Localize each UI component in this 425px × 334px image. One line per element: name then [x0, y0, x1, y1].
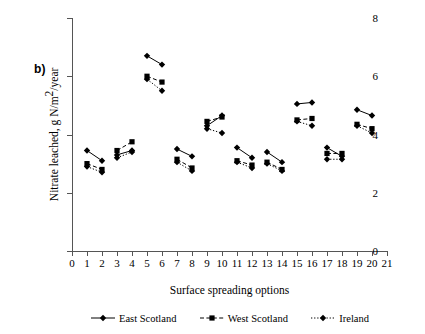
x-tick [117, 251, 118, 256]
legend-label: East Scotland [119, 313, 176, 324]
x-axis-title: Surface spreading options [72, 284, 387, 296]
series-east-scotland [84, 53, 375, 166]
data-point-marker [320, 315, 326, 321]
x-tick [282, 251, 283, 256]
data-point-marker [324, 144, 330, 150]
data-point-marker [159, 79, 164, 84]
legend-marker-icon [90, 313, 116, 323]
data-point-marker [129, 139, 134, 144]
x-tick [267, 251, 268, 256]
series-segment [237, 148, 252, 158]
x-tick [357, 251, 358, 256]
data-point-marker [309, 99, 315, 105]
series-segment [87, 151, 102, 161]
data-point-marker [309, 116, 314, 121]
legend-item-east-scotland[interactable]: East Scotland [90, 313, 176, 324]
x-tick [147, 251, 148, 256]
data-series-layer [72, 18, 387, 251]
data-point-marker [84, 147, 90, 153]
series-segment [177, 149, 192, 156]
data-point-marker [159, 61, 165, 67]
data-point-marker [249, 155, 255, 161]
plot-area: 02468 0123456789101112131415161718192021 [72, 18, 387, 251]
data-point-marker [99, 158, 105, 164]
data-point-marker [114, 148, 119, 153]
x-tick [132, 251, 133, 256]
data-point-marker [294, 101, 300, 107]
chart-legend: East ScotlandWest ScotlandIreland [72, 308, 387, 328]
data-point-marker [279, 159, 285, 165]
data-point-marker [369, 112, 375, 118]
x-tick [162, 251, 163, 256]
data-point-marker [209, 315, 214, 320]
x-tick [252, 251, 253, 256]
x-tick [327, 251, 328, 256]
x-tick [372, 251, 373, 256]
data-point-marker [204, 119, 209, 124]
data-point-marker [219, 130, 225, 136]
series-ireland [84, 76, 375, 176]
legend-label: Ireland [339, 313, 369, 324]
legend-item-west-scotland[interactable]: West Scotland [199, 313, 288, 324]
legend-marker-icon [199, 313, 225, 323]
figure-panel: b) Nitrate leached, g N/m2/year 02468 01… [0, 0, 425, 334]
x-tick [237, 251, 238, 256]
legend-marker-icon [310, 313, 336, 323]
x-axis-line [72, 251, 387, 252]
x-tick [222, 251, 223, 256]
data-point-marker [339, 151, 344, 156]
series-west-scotland [84, 74, 374, 172]
x-tick [177, 251, 178, 256]
data-point-marker [324, 151, 329, 156]
x-tick [297, 251, 298, 256]
data-point-marker [100, 315, 106, 321]
data-point-marker [219, 114, 224, 119]
data-point-marker [234, 144, 240, 150]
data-point-marker [264, 149, 270, 155]
data-point-marker [174, 146, 180, 152]
x-tick [207, 251, 208, 256]
legend-item-ireland[interactable]: Ireland [310, 313, 369, 324]
x-tick [312, 251, 313, 256]
data-point-marker [324, 156, 330, 162]
x-tick [87, 251, 88, 256]
data-point-marker [144, 53, 150, 59]
data-point-marker [309, 123, 315, 129]
legend-label: West Scotland [228, 313, 288, 324]
series-segment [147, 56, 162, 65]
x-tick [342, 251, 343, 256]
x-tick [102, 251, 103, 256]
data-point-marker [189, 153, 195, 159]
x-tick [72, 251, 73, 256]
y-axis-title: Nitrate leached, g N/m2/year [44, 18, 60, 251]
data-point-marker [354, 107, 360, 113]
x-tick [387, 251, 388, 256]
x-tick [192, 251, 193, 256]
x-tick-label: 21 [378, 258, 396, 269]
